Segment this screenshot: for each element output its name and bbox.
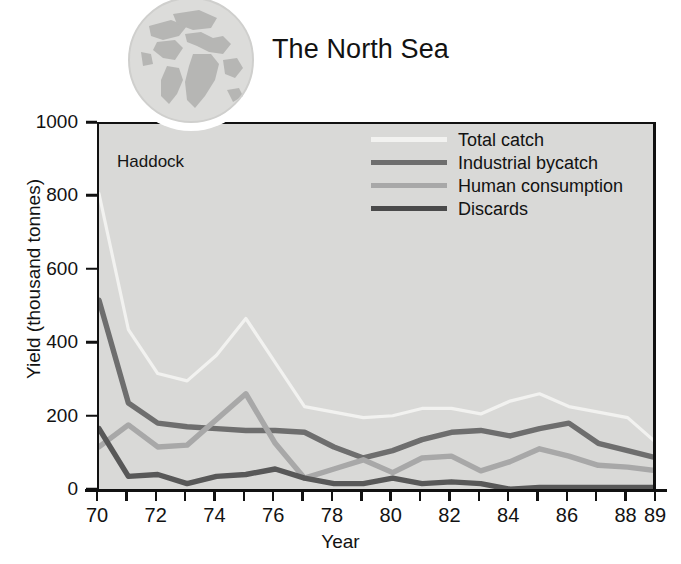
x-axis-line [85, 489, 667, 492]
x-tick-mark [389, 489, 391, 501]
legend-swatch [371, 183, 447, 188]
globe-icon [127, 0, 255, 124]
y-tick-mark [86, 341, 97, 344]
y-tick-label: 400 [46, 331, 78, 353]
legend-swatch [371, 206, 447, 211]
y-tick-mark [86, 414, 97, 417]
x-tick-mark [595, 489, 597, 501]
legend-label: Total catch [458, 131, 544, 149]
x-tick-label: 89 [644, 504, 666, 527]
x-tick-mark [184, 489, 186, 501]
x-tick-mark [360, 489, 362, 501]
y-tick-mark [86, 268, 97, 271]
y-tick-label: 200 [46, 405, 78, 427]
legend-label: Discards [458, 200, 528, 218]
right-axis-line [653, 122, 656, 490]
x-tick-label: 76 [262, 504, 284, 527]
x-tick-label: 86 [556, 504, 578, 527]
y-tick-label: 600 [46, 258, 78, 280]
x-tick-mark [507, 489, 509, 501]
x-tick-mark [624, 489, 626, 501]
x-tick-mark [213, 489, 215, 501]
series-annotation-haddock: Haddock [117, 152, 184, 172]
x-axis-label: Year [0, 531, 681, 553]
x-tick-label: 84 [497, 504, 519, 527]
legend-swatch [371, 137, 447, 142]
x-tick-label: 74 [203, 504, 225, 527]
legend-label: Industrial bycatch [458, 154, 598, 172]
x-tick-label: 78 [321, 504, 343, 527]
y-tick-mark [86, 488, 97, 491]
x-tick-label: 82 [438, 504, 460, 527]
legend-label: Human consumption [458, 177, 623, 195]
x-tick-label: 80 [380, 504, 402, 527]
y-tick-label: 0 [67, 478, 78, 500]
y-tick-mark [86, 194, 97, 197]
x-tick-mark [419, 489, 421, 501]
x-tick-label: 70 [86, 504, 108, 527]
x-tick-label: 88 [615, 504, 637, 527]
page-title: The North Sea [272, 34, 449, 65]
legend-item: Human consumption [371, 174, 623, 197]
x-tick-label: 72 [145, 504, 167, 527]
x-tick-mark [96, 489, 98, 501]
x-tick-mark [478, 489, 480, 501]
x-tick-mark [536, 489, 538, 501]
x-tick-mark [272, 489, 274, 501]
x-tick-mark [448, 489, 450, 501]
y-tick-mark [86, 121, 97, 124]
legend-swatch [371, 160, 447, 165]
chart-figure: The North Sea Yield (thousand tonnes) 02… [0, 0, 681, 564]
x-tick-mark [566, 489, 568, 501]
chart-legend: Total catchIndustrial bycatchHuman consu… [371, 128, 623, 220]
x-tick-mark [155, 489, 157, 501]
series-line-total-catch [99, 194, 655, 444]
x-tick-mark [301, 489, 303, 501]
x-tick-mark [125, 489, 127, 501]
legend-item: Industrial bycatch [371, 151, 623, 174]
legend-item: Discards [371, 197, 623, 220]
y-tick-label: 800 [46, 184, 78, 206]
y-axis-ticks: 02004006008001000 [0, 0, 78, 564]
y-tick-label: 1000 [36, 111, 78, 133]
x-tick-mark [331, 489, 333, 501]
x-tick-mark [243, 489, 245, 501]
legend-item: Total catch [371, 128, 623, 151]
x-tick-mark [654, 489, 656, 501]
